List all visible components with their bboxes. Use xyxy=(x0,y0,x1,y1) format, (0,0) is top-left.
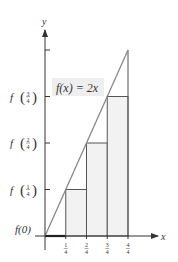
x-tick-label-4: 44 xyxy=(126,242,130,255)
x-axis-label: x xyxy=(160,231,166,242)
x-tick-label-3: 34 xyxy=(105,242,109,255)
y-tick-label-f0: f(0) xyxy=(15,223,31,236)
x-tick-label-den: 4 xyxy=(64,249,67,255)
x-tick-label-num: 3 xyxy=(106,242,109,248)
x-tick-label-num: 1 xyxy=(64,242,67,248)
y-tick-label-rparen: ) xyxy=(32,182,37,199)
y-tick-label-num: 2 xyxy=(27,137,30,143)
y-tick-label-rparen: ) xyxy=(32,89,37,106)
x-tick-label-num: 4 xyxy=(127,242,130,248)
x-tick-label-den: 4 xyxy=(106,249,109,255)
x-tick-label-1: 14 xyxy=(64,242,68,255)
y-tick-label-den: 4 xyxy=(27,191,30,197)
x-tick-label-den: 4 xyxy=(127,249,130,255)
y-tick-label-den: 4 xyxy=(27,98,30,104)
y-tick-label-rparen: ) xyxy=(32,135,37,152)
y-tick-label-num: 1 xyxy=(27,184,30,190)
y-tick-label-f: f xyxy=(10,91,15,103)
function-label: f(x) = 2x xyxy=(56,81,99,95)
rectangle-3 xyxy=(87,143,108,236)
y-axis-label: y xyxy=(41,16,47,27)
x-tick-label-2: 24 xyxy=(85,242,89,255)
x-tick-label-num: 2 xyxy=(85,242,88,248)
y-ticks-group: f(0)f(14)f(24)f(34) xyxy=(10,50,50,236)
y-tick-label-f: f xyxy=(10,137,15,149)
y-tick-label-lparen: ( xyxy=(20,182,25,199)
y-tick-label-den: 4 xyxy=(27,144,30,150)
y-tick-label-lparen: ( xyxy=(20,135,25,152)
y-tick-label-f: f xyxy=(10,184,15,196)
y-tick-label-lparen: ( xyxy=(20,89,25,106)
rectangle-4 xyxy=(107,97,128,237)
riemann-sum-diagram: f(0)f(14)f(24)f(34) 14243444 f(x) = 2x y… xyxy=(0,0,178,262)
y-tick-label-3: f(34) xyxy=(10,89,37,106)
x-tick-label-den: 4 xyxy=(85,249,88,255)
y-tick-label-2: f(24) xyxy=(10,135,37,152)
y-tick-label-1: f(14) xyxy=(10,182,37,199)
y-tick-label-num: 3 xyxy=(27,91,30,97)
x-ticks-group: 14243444 xyxy=(64,236,130,255)
rectangle-2 xyxy=(66,190,87,237)
